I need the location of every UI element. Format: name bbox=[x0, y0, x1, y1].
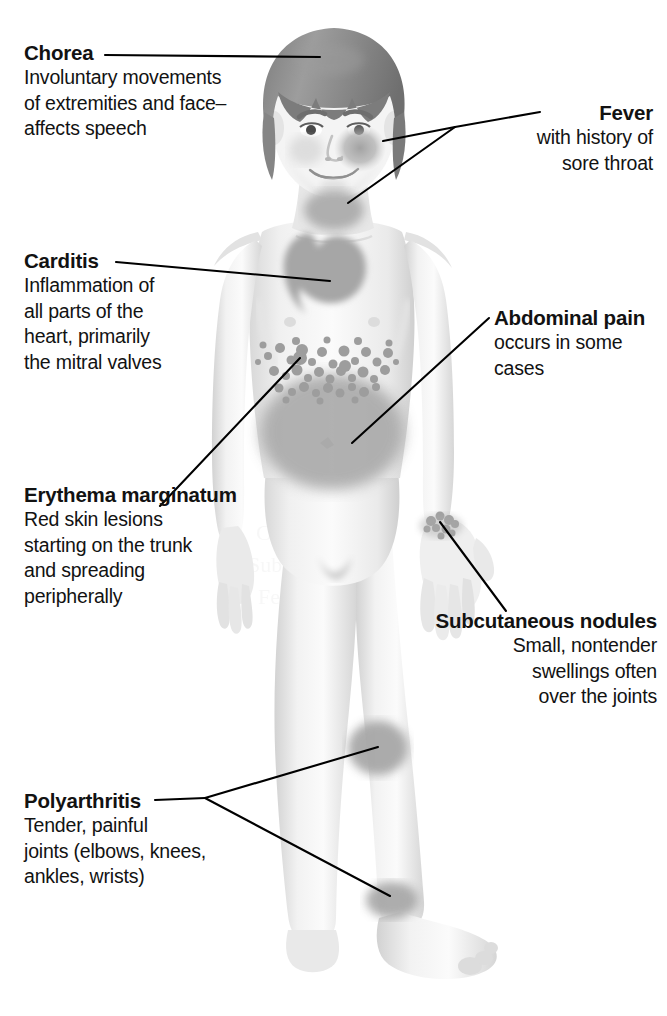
patch-head-chorea bbox=[296, 44, 364, 76]
callout-fever[interactable]: Fever with history of sore throat bbox=[393, 100, 653, 176]
callout-chorea-title: Chorea bbox=[24, 40, 274, 65]
callout-fever-title: Fever bbox=[393, 100, 653, 125]
patch-cheek-fever bbox=[334, 124, 386, 172]
callout-abdominal-pain-title: Abdominal pain bbox=[494, 305, 664, 330]
callout-abdominal-pain[interactable]: Abdominal pain occurs in some cases bbox=[494, 305, 664, 381]
patch-throat-sorethroat bbox=[304, 190, 364, 230]
callout-fever-body: with history of sore throat bbox=[393, 125, 653, 176]
callout-chorea-body: Involuntary movements of extremities and… bbox=[24, 65, 274, 142]
callout-carditis-body: Inflammation of all parts of the heart, … bbox=[24, 273, 274, 375]
diagram-canvas: Erythema Carditis Subcutaneous Fever bbox=[0, 0, 667, 1016]
callout-subcutaneous-nodules-body: Small, nontender swellings often over th… bbox=[392, 633, 657, 710]
callout-polyarthritis[interactable]: Polyarthritis Tender, painful joints (el… bbox=[24, 788, 294, 890]
callout-chorea[interactable]: Chorea Involuntary movements of extremit… bbox=[24, 40, 274, 142]
callout-carditis-title: Carditis bbox=[24, 248, 274, 273]
callout-subcutaneous-nodules[interactable]: Subcutaneous nodules Small, nontender sw… bbox=[392, 608, 657, 710]
callout-erythema-marginatum[interactable]: Erythema marginatum Red skin lesions sta… bbox=[24, 482, 274, 609]
callout-subcutaneous-nodules-title: Subcutaneous nodules bbox=[392, 608, 657, 633]
callout-erythema-marginatum-title: Erythema marginatum bbox=[24, 482, 274, 507]
callout-carditis[interactable]: Carditis Inflammation of all parts of th… bbox=[24, 248, 274, 375]
callout-abdominal-pain-body: occurs in some cases bbox=[494, 330, 664, 381]
callout-polyarthritis-title: Polyarthritis bbox=[24, 788, 294, 813]
callout-polyarthritis-body: Tender, painful joints (elbows, knees, a… bbox=[24, 813, 294, 890]
callout-erythema-marginatum-body: Red skin lesions starting on the trunk a… bbox=[24, 507, 274, 609]
